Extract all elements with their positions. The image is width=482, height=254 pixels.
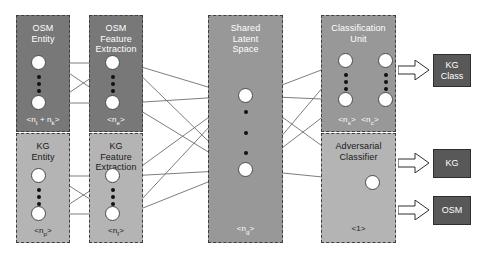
node-kg-entity-bottom — [31, 206, 46, 221]
block-adversarial-classifier-footer: <1> — [322, 224, 395, 233]
block-kg-feature-extraction-title: KG Feature Extraction — [90, 141, 142, 173]
ellipsis-classification-left — [340, 73, 352, 91]
block-shared-latent-space-title: Shared Latent Space — [209, 23, 282, 55]
node-classification-right-bottom — [378, 92, 393, 107]
ellipsis-latent — [240, 110, 252, 155]
node-kg-feature-top — [105, 168, 120, 183]
block-adversarial-classifier: Adversarial Classifier <1> — [321, 133, 396, 243]
ellipsis-kg-feature — [107, 188, 119, 206]
arrow-to-kg-class — [398, 60, 430, 80]
node-classification-left-bottom — [338, 92, 353, 107]
node-classification-left-top — [338, 53, 353, 68]
arrow-to-kg — [398, 153, 430, 173]
node-osm-entity-bottom — [31, 95, 46, 110]
ellipsis-kg-entity — [33, 188, 45, 206]
block-classification-unit-footer-right: <nc> — [347, 115, 393, 124]
block-kg-entity-footer: <np> — [17, 226, 69, 235]
output-box-kg: KG — [433, 149, 471, 178]
arrow-to-osm — [398, 200, 430, 220]
node-kg-feature-bottom — [105, 206, 120, 221]
ellipsis-classification-right — [380, 73, 392, 91]
block-osm-feature-extraction-footer: <ne> — [90, 115, 142, 124]
architecture-diagram: OSM Entity <nt + nk> OSM Feature Extract… — [0, 0, 482, 254]
ellipsis-osm-entity — [33, 75, 45, 93]
block-kg-feature-extraction-footer: <nf> — [90, 226, 142, 235]
node-osm-entity-top — [31, 55, 46, 70]
ellipsis-osm-feature — [107, 75, 119, 93]
block-kg-entity-title: KG Entity — [17, 141, 69, 162]
block-osm-entity: OSM Entity <nt + nk> — [16, 15, 70, 132]
block-osm-feature-extraction-title: OSM Feature Extraction — [90, 23, 142, 55]
node-latent-bottom — [238, 162, 253, 177]
output-box-kg-class: KG Class — [433, 54, 471, 87]
node-latent-top — [238, 88, 253, 103]
node-kg-entity-top — [31, 168, 46, 183]
block-osm-feature-extraction: OSM Feature Extraction <ne> — [89, 15, 143, 132]
output-box-osm: OSM — [433, 196, 471, 225]
node-osm-feature-bottom — [105, 95, 120, 110]
block-osm-entity-footer: <nt + nk> — [17, 115, 69, 124]
node-classification-right-top — [378, 53, 393, 68]
node-osm-feature-top — [105, 55, 120, 70]
block-classification-unit-title: Classification Unit — [322, 23, 395, 44]
block-osm-entity-title: OSM Entity — [17, 23, 69, 44]
block-shared-latent-space-footer: <ng> — [209, 224, 282, 233]
block-adversarial-classifier-title: Adversarial Classifier — [322, 141, 395, 162]
node-adversarial — [365, 175, 380, 190]
